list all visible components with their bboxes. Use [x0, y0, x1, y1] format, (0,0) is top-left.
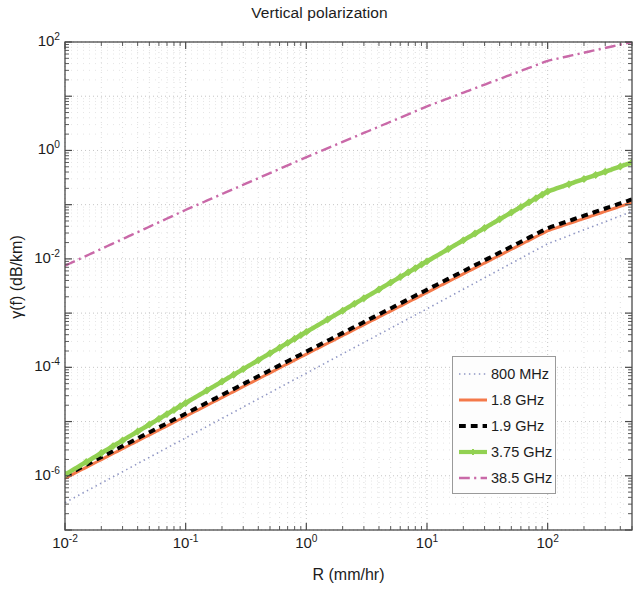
legend-swatch-0 — [458, 367, 488, 381]
legend: 800 MHz1.8 GHz1.9 GHz3.75 GHz38.5 GHz — [452, 356, 556, 494]
plot-area — [0, 0, 639, 594]
legend-swatch-4 — [458, 471, 488, 485]
legend-label-3: 3.75 GHz — [491, 444, 552, 460]
legend-label-4: 38.5 GHz — [491, 470, 552, 486]
legend-entry-2[interactable]: 1.9 GHz — [453, 413, 555, 439]
legend-entry-4[interactable]: 38.5 GHz — [453, 465, 555, 491]
legend-swatch-1 — [458, 393, 488, 407]
figure: Vertical polarization γ(f) (dB/km) R (mm… — [0, 0, 639, 594]
legend-label-2: 1.9 GHz — [491, 418, 544, 434]
legend-label-0: 800 MHz — [491, 366, 549, 382]
legend-entry-3[interactable]: 3.75 GHz — [453, 439, 555, 465]
legend-swatch-3 — [458, 445, 488, 459]
legend-entry-0[interactable]: 800 MHz — [453, 361, 555, 387]
legend-label-1: 1.8 GHz — [491, 392, 544, 408]
legend-entry-1[interactable]: 1.8 GHz — [453, 387, 555, 413]
legend-swatch-2 — [458, 419, 488, 433]
